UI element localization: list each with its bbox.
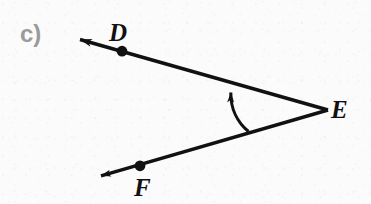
angle-diagram-svg [0, 0, 371, 204]
part-label: c) [20, 22, 41, 46]
figure-canvas: c) D E F [0, 0, 371, 204]
vertex-label-d: D [109, 20, 127, 45]
point-dot-f [135, 160, 146, 171]
point-dot-d [117, 46, 128, 57]
angle-arc [231, 93, 249, 132]
vertex-label-f: F [134, 175, 151, 200]
vertex-label-e: E [331, 97, 348, 122]
